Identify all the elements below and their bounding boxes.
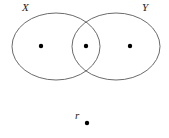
point-dot-x-only	[39, 44, 43, 48]
venn-diagram: X Y r	[0, 0, 169, 138]
point-dot-y-only	[128, 44, 132, 48]
venn-diagram-canvas	[0, 0, 169, 138]
point-dot-intersection	[84, 44, 88, 48]
point-label-r: r	[75, 110, 79, 121]
set-label-x: X	[22, 2, 29, 13]
point-dot-r	[85, 121, 89, 125]
set-label-y: Y	[142, 2, 148, 13]
